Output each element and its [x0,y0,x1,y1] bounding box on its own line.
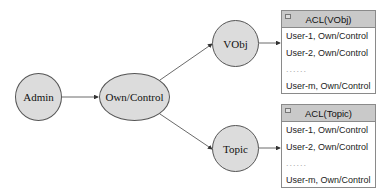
acl-topic-box: ACL(Topic) User-1, Own/Control User-2, O… [281,104,376,188]
vobj-label: VObj [223,38,247,50]
own-control-label: Own/Control [105,91,163,103]
acl-vobj-row: User-1, Own/Control [282,28,375,45]
acl-vobj-title: ACL(VObj) [306,14,352,25]
edge-owncontrol-vobj [160,44,212,80]
acl-topic-row: User-2, Own/Control [282,139,375,156]
vobj-node: VObj [212,20,259,67]
acl-vobj-header: ACL(VObj) [282,11,375,28]
acl-vobj-row: User-m, Own/Control [282,78,375,95]
topic-node: Topic [212,125,259,172]
acl-topic-ellipsis: ...... [282,155,375,172]
admin-label: Admin [23,91,54,103]
edge-owncontrol-topic [160,114,212,149]
collapse-icon [285,14,291,19]
acl-vobj-box: ACL(VObj) User-1, Own/Control User-2, Ow… [281,10,376,94]
acl-topic-title: ACL(Topic) [305,108,352,119]
own-control-node: Own/Control [99,73,170,121]
acl-topic-row: User-1, Own/Control [282,122,375,139]
acl-vobj-row: User-2, Own/Control [282,45,375,62]
acl-topic-row: User-m, Own/Control [282,172,375,189]
topic-label: Topic [223,143,248,155]
admin-node: Admin [15,73,62,121]
collapse-icon [285,108,291,113]
acl-vobj-ellipsis: ...... [282,61,375,78]
acl-topic-header: ACL(Topic) [282,105,375,122]
